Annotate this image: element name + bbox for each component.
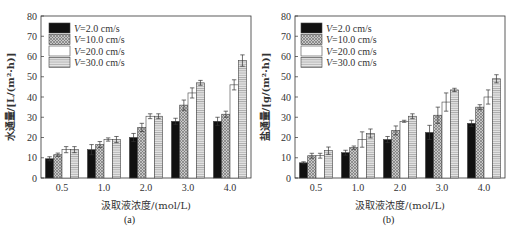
x-tick-label: 0.5 (310, 182, 323, 193)
bar (434, 115, 442, 178)
y-tick-label: 40 (27, 92, 37, 103)
bar (188, 93, 196, 178)
bar (299, 163, 307, 178)
bar (350, 148, 358, 178)
chart-panel-b: 01020304050607080盐通量/[g/(m²·h)]0.51.02.0… (259, 0, 518, 240)
salt-flux-chart: 01020304050607080盐通量/[g/(m²·h)]0.51.02.0… (259, 0, 518, 240)
y-tick-label: 50 (281, 71, 291, 82)
bar (476, 107, 484, 178)
legend-label: V=2.0 cm/s (74, 23, 120, 34)
bar (308, 156, 316, 178)
y-tick-label: 70 (27, 31, 37, 42)
bar (230, 85, 238, 178)
bar (96, 145, 104, 178)
bar (196, 83, 204, 178)
bar (442, 102, 450, 178)
bar (467, 123, 475, 178)
y-tick-label: 80 (281, 11, 291, 22)
bar (154, 116, 162, 178)
y-tick-label: 0 (286, 173, 291, 184)
legend-swatch (301, 23, 322, 33)
x-tick-label: 2.0 (140, 182, 153, 193)
x-tick-label: 4.0 (478, 182, 491, 193)
bar (45, 159, 53, 178)
bar (400, 121, 408, 178)
x-tick-label: 1.0 (352, 182, 365, 193)
bar (408, 116, 416, 178)
y-tick-label: 10 (27, 152, 37, 163)
y-tick-label: 20 (27, 132, 37, 143)
legend-swatch (49, 58, 70, 68)
legend-label: V=10.0 cm/s (74, 34, 125, 45)
y-tick-label: 30 (281, 112, 291, 123)
bar (484, 97, 492, 178)
legend-label: V=20.0 cm/s (326, 46, 377, 57)
y-tick-label: 20 (281, 132, 291, 143)
bar (70, 150, 78, 178)
y-tick-label: 40 (281, 92, 291, 103)
bar (324, 151, 332, 178)
bar (112, 140, 120, 178)
bar (138, 127, 146, 178)
bar (450, 90, 458, 178)
legend-swatch (49, 23, 70, 33)
y-axis-label: 盐通量/[g/(m²·h)] (259, 53, 271, 142)
legend-label: V=2.0 cm/s (326, 23, 372, 34)
legend-label: V=30.0 cm/s (326, 57, 377, 68)
legend-swatch (49, 46, 70, 56)
legend-label: V=10.0 cm/s (326, 34, 377, 45)
water-flux-chart: 01020304050607080水通量/[L/(m²·h)]0.51.02.0… (0, 0, 259, 240)
legend-swatch (301, 35, 322, 45)
bar (222, 114, 230, 178)
y-tick-label: 70 (281, 31, 291, 42)
y-tick-label: 30 (27, 112, 37, 123)
bar (238, 61, 246, 178)
bar (104, 140, 112, 178)
bar (392, 130, 400, 178)
legend-swatch (301, 58, 322, 68)
bar (213, 121, 221, 178)
x-tick-label: 0.5 (56, 182, 69, 193)
y-tick-label: 0 (32, 173, 37, 184)
bar (146, 116, 154, 178)
y-tick-label: 10 (281, 152, 291, 163)
caption-a: (a) (0, 214, 259, 225)
x-tick-label: 2.0 (394, 182, 407, 193)
legend-swatch (49, 35, 70, 45)
y-tick-label: 50 (27, 71, 37, 82)
legend-label: V=30.0 cm/s (74, 57, 125, 68)
x-tick-label: 3.0 (182, 182, 195, 193)
y-tick-label: 80 (27, 11, 37, 22)
x-tick-label: 4.0 (224, 182, 237, 193)
bar (171, 121, 179, 178)
x-axis-label: 汲取液浓度/(mol/L) (101, 199, 191, 211)
bar (366, 133, 374, 178)
bar (341, 153, 349, 178)
y-tick-label: 60 (27, 51, 37, 62)
y-axis-label: 水通量/[L/(m²·h)] (4, 53, 16, 143)
bar (316, 156, 324, 178)
bar (129, 138, 137, 179)
x-tick-label: 1.0 (98, 182, 111, 193)
bar (492, 79, 500, 178)
bar (180, 105, 188, 178)
chart-panel-a: 01020304050607080水通量/[L/(m²·h)]0.51.02.0… (0, 0, 259, 240)
caption-b: (b) (259, 214, 518, 225)
x-axis-label: 汲取液浓度/(mol/L) (355, 199, 445, 211)
legend-label: V=20.0 cm/s (74, 46, 125, 57)
bar (54, 155, 62, 178)
bar (62, 150, 70, 178)
y-tick-label: 60 (281, 51, 291, 62)
x-tick-label: 3.0 (436, 182, 449, 193)
legend-swatch (301, 46, 322, 56)
bar (383, 140, 391, 178)
